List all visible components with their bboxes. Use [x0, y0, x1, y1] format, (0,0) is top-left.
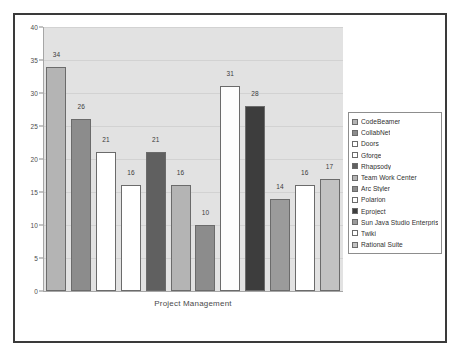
- legend-item[interactable]: CodeBeamer: [352, 116, 438, 127]
- legend-color-swatch: [352, 163, 358, 169]
- y-axis-tick-label: 30: [31, 90, 38, 97]
- y-axis-tick-label: 10: [31, 222, 38, 229]
- legend-item-label: Twiki: [361, 230, 376, 237]
- chart-canvas: 0510152025303540 34262116211610312814161…: [15, 15, 445, 341]
- legend-color-swatch: [352, 119, 358, 125]
- chart-frame: 0510152025303540 34262116211610312814161…: [13, 13, 447, 343]
- plot-area: 342621162116103128141617: [43, 27, 343, 292]
- bar[interactable]: [171, 185, 191, 291]
- legend-color-swatch: [352, 175, 358, 181]
- legend-color-swatch: [352, 208, 358, 214]
- bar-value-label: 21: [102, 136, 109, 143]
- legend-item-label: CollabNet: [361, 129, 390, 136]
- bar[interactable]: [320, 179, 340, 291]
- y-axis-tick-label: 35: [31, 57, 38, 64]
- bar[interactable]: [195, 225, 215, 291]
- y-axis-tick-label: 0: [34, 288, 38, 295]
- legend-item-label: Polarion: [361, 196, 386, 203]
- bar-value-label: 16: [127, 169, 134, 176]
- chart-legend: CodeBeamerCollabNetDoorsGforgeRhapsodyTe…: [348, 112, 442, 254]
- bar-value-label: 16: [177, 169, 184, 176]
- x-axis-label: Project Management: [43, 299, 343, 308]
- bar[interactable]: [220, 86, 240, 291]
- legend-color-swatch: [352, 219, 358, 225]
- legend-item[interactable]: Team Work Center: [352, 172, 438, 183]
- bar[interactable]: [96, 152, 116, 291]
- bar-value-label: 14: [276, 183, 283, 190]
- bar[interactable]: [46, 67, 66, 291]
- legend-item[interactable]: Rational Suite: [352, 239, 438, 250]
- y-axis-tick-label: 40: [31, 24, 38, 31]
- bar[interactable]: [295, 185, 315, 291]
- legend-item[interactable]: Rhapsody: [352, 161, 438, 172]
- legend-item-label: Rational Suite: [361, 241, 403, 248]
- bar-value-label: 17: [326, 163, 333, 170]
- bar-series: 342621162116103128141617: [44, 27, 343, 291]
- y-axis-tick-label: 15: [31, 189, 38, 196]
- y-axis-tick-label: 20: [31, 156, 38, 163]
- legend-color-swatch: [352, 230, 358, 236]
- bar[interactable]: [245, 106, 265, 291]
- legend-item-label: Rhapsody: [361, 163, 391, 170]
- bar-value-label: 21: [152, 136, 159, 143]
- legend-item-label: Sun Java Studio Enterprise: [361, 219, 438, 226]
- legend-item-label: Doors: [361, 140, 379, 147]
- legend-item[interactable]: Arc Styler: [352, 183, 438, 194]
- legend-item[interactable]: Sun Java Studio Enterprise: [352, 217, 438, 228]
- legend-item[interactable]: Eproject: [352, 206, 438, 217]
- legend-color-swatch: [352, 197, 358, 203]
- legend-item-label: Gforge: [361, 152, 381, 159]
- bar-value-label: 16: [301, 169, 308, 176]
- bar-value-label: 10: [202, 209, 209, 216]
- bar[interactable]: [121, 185, 141, 291]
- bar[interactable]: [270, 199, 290, 291]
- bar[interactable]: [71, 119, 91, 291]
- bar[interactable]: [146, 152, 166, 291]
- legend-item[interactable]: Polarion: [352, 194, 438, 205]
- bar-value-label: 34: [53, 51, 60, 58]
- y-axis-tick-label: 25: [31, 123, 38, 130]
- legend-item-label: CodeBeamer: [361, 118, 400, 125]
- legend-color-swatch: [352, 130, 358, 136]
- legend-item[interactable]: Twiki: [352, 228, 438, 239]
- y-axis: 0510152025303540: [15, 27, 43, 292]
- legend-item[interactable]: Doors: [352, 138, 438, 149]
- legend-color-swatch: [352, 152, 358, 158]
- legend-item-label: Arc Styler: [361, 185, 390, 192]
- legend-color-swatch: [352, 242, 358, 248]
- y-axis-tick-label: 5: [34, 255, 38, 262]
- legend-item[interactable]: Gforge: [352, 150, 438, 161]
- legend-item[interactable]: CollabNet: [352, 127, 438, 138]
- bar-value-label: 28: [251, 90, 258, 97]
- bar-value-label: 26: [78, 103, 85, 110]
- legend-item-label: Eproject: [361, 208, 386, 215]
- bar-value-label: 31: [227, 70, 234, 77]
- legend-item-label: Team Work Center: [361, 174, 417, 181]
- legend-color-swatch: [352, 141, 358, 147]
- legend-color-swatch: [352, 186, 358, 192]
